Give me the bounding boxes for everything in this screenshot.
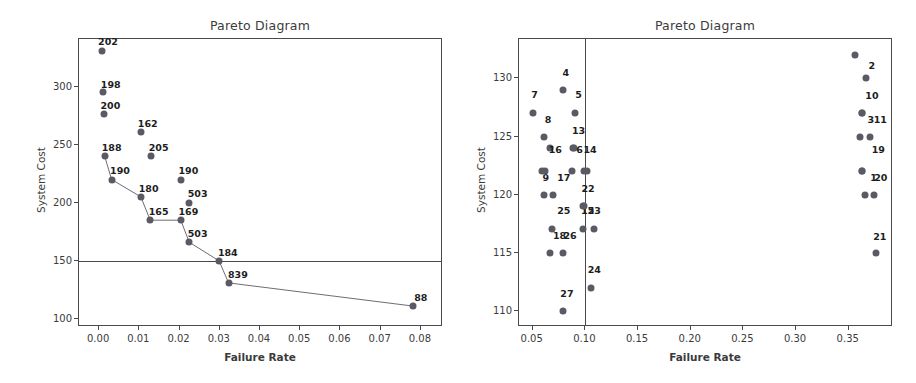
left-y-tick-label: 300	[40, 80, 72, 91]
left-y-tick-label: 250	[40, 138, 72, 149]
left-y-tick-label: 150	[40, 254, 72, 265]
data-point-marker	[137, 193, 144, 200]
data-point-label: 190	[178, 165, 198, 176]
data-point-label: 202	[98, 36, 118, 47]
data-point-marker	[186, 239, 193, 246]
right-y-tick-label: 110	[480, 304, 512, 315]
left-y-tickmark	[74, 202, 78, 203]
right-y-axis-label: System Cost	[475, 125, 487, 235]
data-point-label: 839	[228, 268, 248, 279]
left-x-tick-label: 0.00	[87, 333, 109, 344]
left-x-tickmark	[138, 326, 139, 330]
left-x-tickmark	[420, 326, 421, 330]
data-point-marker	[137, 128, 144, 135]
right-x-tickmark	[742, 326, 743, 330]
data-point-label: 169	[178, 205, 198, 216]
right-x-axis-label: Failure Rate	[518, 351, 892, 363]
right-x-tick-label: 0.25	[731, 333, 753, 344]
data-point-label: 180	[139, 182, 159, 193]
data-point-marker	[560, 87, 567, 94]
data-point-marker	[225, 279, 232, 286]
left-y-tickmark	[74, 318, 78, 319]
right-x-tick-label: 0.30	[784, 333, 806, 344]
pareto-front-line	[79, 39, 443, 327]
left-x-tick-label: 0.05	[288, 333, 310, 344]
data-point-label: 26	[563, 230, 576, 241]
data-point-marker	[571, 110, 578, 117]
data-point-label: 6	[576, 144, 583, 155]
left-x-tickmark	[339, 326, 340, 330]
data-point-marker	[859, 110, 866, 117]
data-point-marker	[866, 133, 873, 140]
figure-canvas: Pareto Diagram System Cost Failure Rate …	[0, 0, 916, 383]
right-y-tick-label: 130	[480, 72, 512, 83]
data-point-label: 19	[872, 144, 885, 155]
data-point-marker	[98, 47, 105, 54]
left-y-tick-label: 100	[40, 312, 72, 323]
right-y-tick-label: 120	[480, 188, 512, 199]
data-point-label: 14	[583, 144, 596, 155]
right-x-tickmark	[848, 326, 849, 330]
data-point-marker	[861, 191, 868, 198]
data-point-marker	[100, 89, 107, 96]
right-chart-title: Pareto Diagram	[518, 18, 892, 33]
data-point-label: 8	[545, 114, 552, 125]
data-point-label: 21	[873, 231, 886, 242]
left-chart-title: Pareto Diagram	[78, 18, 442, 33]
data-point-marker	[559, 307, 566, 314]
data-point-marker	[559, 249, 566, 256]
data-point-label: 165	[149, 205, 169, 216]
data-point-marker	[852, 52, 859, 59]
left-x-tickmark	[380, 326, 381, 330]
data-point-label: 503	[188, 227, 208, 238]
right-y-tickmark	[514, 77, 518, 78]
data-point-label: 184	[218, 246, 238, 257]
data-point-label: 20	[874, 172, 887, 183]
data-point-label: 25	[557, 204, 570, 215]
data-point-marker	[862, 75, 869, 82]
data-point-marker	[579, 226, 586, 233]
left-x-tickmark	[299, 326, 300, 330]
right-y-tickmark	[514, 310, 518, 311]
right-x-tickmark	[795, 326, 796, 330]
data-point-label: 2	[869, 59, 876, 70]
data-point-marker	[588, 284, 595, 291]
right-x-tick-label: 0.15	[626, 333, 648, 344]
right-x-tickmark	[584, 326, 585, 330]
data-point-marker	[101, 153, 108, 160]
data-point-marker	[580, 168, 587, 175]
data-point-marker	[859, 168, 866, 175]
data-point-label: 13	[572, 124, 585, 135]
data-point-marker	[580, 203, 587, 210]
data-point-label: 23	[588, 204, 601, 215]
data-point-marker	[547, 249, 554, 256]
left-x-tickmark	[219, 326, 220, 330]
data-point-marker	[541, 133, 548, 140]
left-y-tickmark	[74, 260, 78, 261]
left-x-tickmark	[179, 326, 180, 330]
right-x-tick-label: 0.10	[573, 333, 595, 344]
right-plot-area: 2410753118191361614917221202515231826212…	[518, 38, 892, 326]
data-point-marker	[857, 133, 864, 140]
data-point-marker	[147, 153, 154, 160]
data-point-label: 5	[575, 88, 582, 99]
data-point-label: 4	[563, 66, 570, 77]
data-point-label: 198	[101, 79, 121, 90]
data-point-marker	[108, 176, 115, 183]
left-y-tickmark	[74, 86, 78, 87]
left-x-tick-label: 0.08	[409, 333, 431, 344]
data-point-marker	[100, 111, 107, 118]
left-plot-area: 2021982001621882051901901805031651695031…	[78, 38, 442, 326]
left-x-tickmark	[259, 326, 260, 330]
right-x-tick-label: 0.35	[837, 333, 859, 344]
left-y-tickmark	[74, 144, 78, 145]
data-point-label: 503	[188, 188, 208, 199]
data-point-label: 7	[531, 88, 538, 99]
right-x-tickmark	[690, 326, 691, 330]
left-x-tick-label: 0.06	[328, 333, 350, 344]
data-point-marker	[541, 168, 548, 175]
left-x-tick-label: 0.02	[167, 333, 189, 344]
left-chart-panel: Pareto Diagram System Cost Failure Rate …	[0, 0, 460, 383]
data-point-label: 88	[414, 291, 427, 302]
data-point-label: 205	[149, 142, 169, 153]
